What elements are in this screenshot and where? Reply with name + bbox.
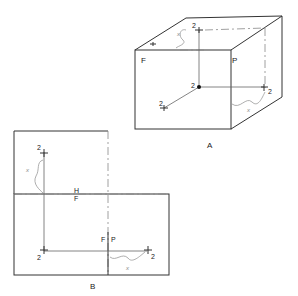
edge-tick (150, 42, 156, 46)
distance-label-top: x (25, 167, 30, 173)
caption-a: A (207, 141, 213, 150)
right-distance-brace (232, 92, 265, 106)
front-face (135, 50, 231, 129)
fold-label-fp-p: P (111, 236, 116, 243)
point-label-left: 2 (159, 100, 163, 107)
point-label-right: 2 (268, 88, 272, 95)
top-point-cross (40, 149, 48, 157)
point-label-top: 2 (192, 22, 196, 29)
fold-label-h: H (74, 187, 79, 194)
center-point (197, 85, 201, 89)
top-point-cross (195, 27, 203, 33)
point-label-bottom-left: 2 (37, 254, 41, 261)
face-label-p: P (232, 56, 237, 65)
fold-label-f: F (74, 195, 78, 202)
figure-a-cube: F P 2 2 2 2 x x A (135, 16, 282, 150)
right-point-cross (261, 84, 268, 91)
projection-diagram: F P 2 2 2 2 x x A H F F P 2 2 (0, 0, 298, 296)
fold-label-fp-f: F (101, 236, 105, 243)
face-label-f: F (141, 56, 146, 65)
distance-label-right: x (246, 107, 251, 113)
bottom-distance-brace (110, 252, 145, 260)
figure-b-projection: H F F P 2 2 2 x x B (14, 131, 169, 291)
point-label-center: 2 (191, 82, 195, 89)
point-label-top: 2 (37, 144, 41, 151)
bottom-left-point-cross (40, 246, 48, 254)
distance-label-bottom: x (125, 265, 130, 271)
top-distance-brace (35, 160, 43, 193)
lower-rectangle (14, 194, 169, 275)
caption-b: B (90, 282, 95, 291)
point-label-bottom-right: 2 (151, 253, 155, 260)
